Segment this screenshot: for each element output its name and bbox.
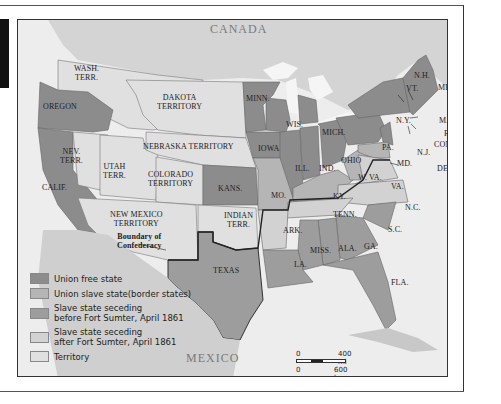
legend-item-union-slave-state: Union slave state(border states) bbox=[30, 288, 191, 299]
label-ky: KY. bbox=[333, 192, 346, 201]
label-nebraska-territory: NEBRASKA TERRITORY bbox=[143, 142, 234, 151]
label-texas: TEXAS bbox=[213, 266, 239, 275]
legend-swatch bbox=[30, 273, 49, 284]
legend-item-union-free-state: Union free state bbox=[30, 273, 191, 284]
legend-swatch bbox=[30, 332, 49, 343]
page-edge-bar bbox=[0, 19, 9, 88]
scale-bar-graphic bbox=[296, 359, 346, 363]
label-ill: ILL. bbox=[295, 164, 310, 173]
label-canada: CANADA bbox=[210, 25, 267, 34]
page-frame-top-line bbox=[0, 5, 464, 6]
legend-item-seceding-after: Slave state secedingafter Fort Sumter, A… bbox=[30, 327, 191, 347]
label-miss: MISS. bbox=[310, 246, 331, 255]
label-ind: IND. bbox=[319, 164, 336, 173]
scale-mi-end: 400 mi bbox=[338, 350, 351, 366]
label-colorado-territory: COLORADOTERRITORY bbox=[148, 170, 193, 188]
label-ark: ARK. bbox=[283, 226, 302, 235]
label-dakota-territory: DAKOTATERRITORY bbox=[157, 93, 202, 111]
label-minn: MINN. bbox=[246, 94, 270, 103]
page-frame-bottom-line bbox=[0, 391, 464, 392]
label-mo: MO. bbox=[271, 191, 286, 200]
label-vt: VT. bbox=[406, 84, 418, 93]
label-nh: N.H. bbox=[414, 71, 430, 80]
label-tenn: TENN. bbox=[333, 210, 357, 219]
label-oregon: OREGON bbox=[43, 102, 77, 111]
legend-item-seceding-before: Slave state secedingbefore Fort Sumter, … bbox=[30, 303, 191, 323]
label-boundary-of-confederacy: Boundary ofConfederacy bbox=[117, 232, 162, 250]
label-indian-terr: INDIANTERR. bbox=[224, 211, 253, 229]
label-del: DEL. bbox=[437, 164, 448, 173]
map-legend: Union free state Union slave state(borde… bbox=[30, 273, 191, 366]
legend-swatch bbox=[30, 288, 49, 299]
label-me: ME. bbox=[438, 83, 448, 92]
label-nev-terr: NEV.TERR. bbox=[60, 147, 83, 165]
label-fla: FLA. bbox=[391, 278, 409, 287]
label-ga: GA. bbox=[364, 242, 378, 251]
label-new-mexico-territory: NEW MEXICOTERRITORY bbox=[110, 210, 163, 228]
label-mexico: MEXICO bbox=[186, 354, 239, 363]
label-mich: MICH. bbox=[322, 128, 345, 137]
label-wis: WIS. bbox=[286, 120, 303, 129]
label-wva: W. VA. bbox=[358, 173, 382, 182]
label-ohio: OHIO bbox=[341, 156, 361, 165]
label-mass: MASS. bbox=[439, 116, 448, 125]
label-wash-terr: WASH.TERR. bbox=[74, 64, 99, 82]
page-frame-right-line bbox=[463, 5, 464, 392]
label-iowa: IOWA bbox=[258, 144, 279, 153]
label-ri: R.I. bbox=[444, 129, 448, 138]
legend-swatch bbox=[30, 351, 49, 362]
label-conn: CONN. bbox=[434, 140, 448, 149]
label-kans: KANS. bbox=[218, 184, 242, 193]
label-sc: S.C. bbox=[388, 225, 402, 234]
label-nc: N.C. bbox=[405, 203, 421, 212]
label-utah-terr: UTAHTERR. bbox=[103, 162, 126, 180]
label-md: MD. bbox=[397, 159, 412, 168]
scale-km-end: 600 km bbox=[334, 366, 351, 377]
label-pa: PA. bbox=[382, 143, 394, 152]
label-nj: N.J. bbox=[417, 148, 430, 157]
scale-mi-start: 0 bbox=[296, 350, 300, 358]
label-ala: ALA. bbox=[338, 244, 357, 253]
scale-bar: 0 400 mi 0 600 km bbox=[296, 350, 351, 376]
label-la: LA. bbox=[294, 260, 307, 269]
scale-km-start: 0 bbox=[296, 366, 300, 374]
legend-swatch bbox=[30, 308, 49, 319]
label-calif: CALIF. bbox=[42, 183, 67, 192]
label-ny: N.Y. bbox=[396, 116, 411, 125]
civil-war-map: CANADA MEXICO WASH.TERR. DAKOTATERRITORY… bbox=[17, 19, 448, 377]
legend-item-territory: Territory bbox=[30, 351, 191, 362]
label-va: VA. bbox=[391, 182, 404, 191]
